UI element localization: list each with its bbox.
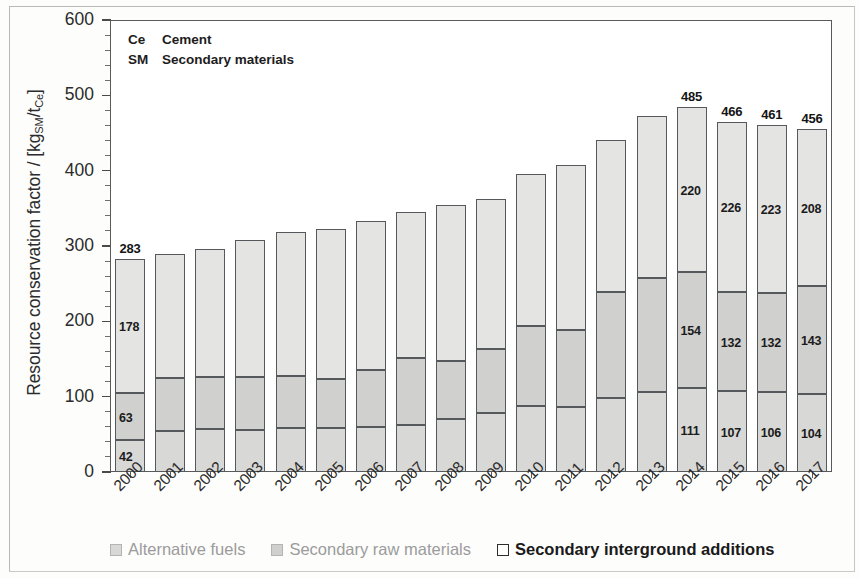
y-axis-tick-label: 400	[34, 162, 94, 180]
bar-group-2007[interactable]	[396, 20, 426, 472]
bar-segment-alternative-fuels[interactable]: 106	[757, 392, 787, 472]
bar-segment-value-label: 178	[119, 321, 139, 334]
bar-total-label-2015: 466	[717, 105, 747, 118]
legend-swatch-icon	[110, 544, 122, 556]
bar-group-2014[interactable]: 111154220485	[677, 20, 707, 472]
y-axis-tick-label: 500	[34, 86, 94, 104]
bar-segment-secondary-raw-materials[interactable]: 63	[115, 393, 145, 440]
bar-total-label-2016: 461	[757, 108, 787, 121]
bar-segment-secondary-raw-materials[interactable]	[356, 370, 386, 427]
bar-total-label-2017: 456	[797, 112, 827, 125]
bar-segment-alternative-fuels[interactable]: 107	[717, 391, 747, 472]
bar-segment-secondary-interground-additions[interactable]	[516, 174, 546, 325]
bar-segment-secondary-interground-additions[interactable]	[195, 249, 225, 377]
bar-group-2010[interactable]	[516, 20, 546, 472]
y-axis-title-sub-sm: SM	[33, 117, 45, 133]
bar-segment-alternative-fuels[interactable]: 111	[677, 388, 707, 472]
bar-segment-secondary-raw-materials[interactable]	[235, 377, 265, 430]
bar-segment-value-label: 223	[761, 204, 781, 217]
bar-group-2013[interactable]	[637, 20, 667, 472]
bar-segment-value-label: 208	[801, 203, 821, 216]
bar-segment-value-label: 154	[681, 325, 701, 338]
y-axis-title-mid: /t	[24, 108, 44, 118]
legend-label: Secondary interground additions	[515, 540, 774, 559]
bar-segment-secondary-raw-materials[interactable]	[195, 377, 225, 429]
bar-segment-secondary-raw-materials[interactable]	[596, 292, 626, 398]
bar-group-2002[interactable]	[195, 20, 225, 472]
y-axis-tick-label: 0	[34, 463, 94, 481]
bar-segment-secondary-raw-materials[interactable]: 132	[757, 293, 787, 392]
bar-total-label-2000: 283	[115, 242, 145, 255]
bar-segment-secondary-raw-materials[interactable]: 132	[717, 292, 747, 391]
page-border-left	[9, 6, 10, 572]
bar-segment-value-label: 106	[761, 427, 781, 440]
bar-segment-secondary-interground-additions[interactable]	[316, 229, 346, 379]
bar-segment-secondary-raw-materials[interactable]	[155, 378, 185, 431]
bar-segment-secondary-interground-additions[interactable]	[596, 140, 626, 292]
bar-segment-secondary-raw-materials[interactable]	[637, 278, 667, 393]
bar-group-2011[interactable]	[556, 20, 586, 472]
bar-segment-secondary-interground-additions[interactable]	[356, 221, 386, 370]
bar-segment-alternative-fuels[interactable]	[637, 392, 667, 472]
bar-segment-value-label: 111	[681, 425, 700, 438]
bar-segment-secondary-interground-additions[interactable]	[396, 212, 426, 358]
bar-segment-secondary-raw-materials[interactable]	[396, 358, 426, 425]
bars-layer: 4263178283111154220485107132226466106132…	[110, 20, 832, 472]
page-border-top	[9, 6, 855, 7]
bar-segment-value-label: 220	[681, 185, 701, 198]
bar-segment-secondary-interground-additions[interactable]	[155, 254, 185, 378]
bar-group-2003[interactable]	[235, 20, 265, 472]
bar-segment-secondary-interground-additions[interactable]	[436, 205, 466, 361]
bar-segment-secondary-interground-additions[interactable]	[235, 240, 265, 377]
bar-group-2004[interactable]	[276, 20, 306, 472]
bar-segment-secondary-interground-additions[interactable]: 223	[757, 125, 787, 293]
bar-segment-value-label: 132	[761, 337, 781, 350]
legend: Alternative fuelsSecondary raw materials…	[110, 540, 850, 559]
legend-swatch-icon	[497, 544, 509, 556]
bar-segment-secondary-raw-materials[interactable]	[276, 376, 306, 429]
bar-group-2009[interactable]	[476, 20, 506, 472]
bar-segment-secondary-interground-additions[interactable]: 208	[797, 129, 827, 286]
bar-segment-secondary-interground-additions[interactable]: 226	[717, 122, 747, 292]
bar-segment-value-label: 107	[721, 427, 741, 440]
legend-label: Alternative fuels	[128, 540, 245, 559]
bar-total-label-2014: 485	[677, 90, 707, 103]
bar-segment-secondary-raw-materials[interactable]	[516, 326, 546, 407]
bar-segment-secondary-interground-additions[interactable]	[637, 116, 667, 277]
legend-item-alternative-fuels[interactable]: Alternative fuels	[110, 540, 245, 559]
bar-segment-secondary-interground-additions[interactable]	[276, 232, 306, 375]
legend-label: Secondary raw materials	[289, 540, 471, 559]
legend-item-secondary-interground-additions[interactable]: Secondary interground additions	[497, 540, 774, 559]
bar-group-2012[interactable]	[596, 20, 626, 472]
page-border-bottom	[9, 571, 855, 572]
bar-segment-secondary-raw-materials[interactable]	[436, 361, 466, 420]
bar-group-2016[interactable]: 106132223461	[757, 20, 787, 472]
bar-segment-secondary-interground-additions[interactable]: 220	[677, 107, 707, 273]
bar-segment-secondary-interground-additions[interactable]: 178	[115, 259, 145, 393]
page-border-right	[854, 6, 855, 572]
bar-segment-secondary-raw-materials[interactable]	[316, 379, 346, 428]
figure-root: Resource conservation factor / [kgSM/tCe…	[0, 0, 860, 578]
bar-segment-secondary-raw-materials[interactable]	[556, 330, 586, 408]
bar-group-2008[interactable]	[436, 20, 466, 472]
bar-segment-value-label: 63	[119, 412, 133, 425]
bar-segment-value-label: 132	[721, 337, 741, 350]
bar-segment-secondary-raw-materials[interactable]: 143	[797, 286, 827, 394]
legend-item-secondary-raw-materials[interactable]: Secondary raw materials	[271, 540, 471, 559]
bar-segment-secondary-interground-additions[interactable]	[476, 199, 506, 349]
y-axis-tick-label: 100	[34, 388, 94, 406]
y-axis-tick-label: 200	[34, 312, 94, 330]
bar-group-2015[interactable]: 107132226466	[717, 20, 747, 472]
bar-segment-secondary-raw-materials[interactable]: 154	[677, 272, 707, 388]
bar-segment-secondary-interground-additions[interactable]	[556, 165, 586, 330]
bar-segment-value-label: 226	[721, 202, 741, 215]
bar-segment-value-label: 104	[801, 428, 821, 441]
bar-group-2005[interactable]	[316, 20, 346, 472]
bar-group-2001[interactable]	[155, 20, 185, 472]
y-axis-tick-label: 300	[34, 237, 94, 255]
bar-segment-secondary-raw-materials[interactable]	[476, 349, 506, 412]
bar-group-2000[interactable]: 4263178283	[115, 20, 145, 472]
y-axis-tick-label: 600	[34, 11, 94, 29]
bar-group-2006[interactable]	[356, 20, 386, 472]
bar-group-2017[interactable]: 104143208456	[797, 20, 827, 472]
